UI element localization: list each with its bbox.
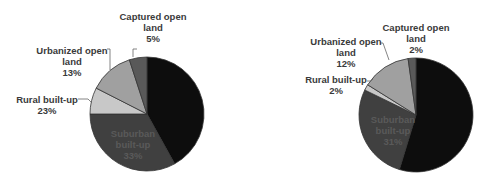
label-urbanized-open-land: Urbanized open land 13% [36,45,108,78]
label-suburban-built-up: Suburban built-up 33% [108,128,158,161]
label-rural-built-up: Rural built-up 23% [14,94,80,116]
label-urbanized-open-land: Urbanized open land 12% [310,36,382,69]
pie-chart-left: Captured open land 5% Urbanized open lan… [0,0,243,182]
pie-chart-right: Captured open land 2% Urbanized open lan… [243,0,486,182]
label-rural-built-up: Rural built-up 2% [303,74,369,96]
label-captured-open-land: Captured open land 5% [118,11,188,44]
label-suburban-built-up: Suburban built-up 31% [368,114,418,147]
leader-line [133,49,137,57]
leader-line [78,99,92,103]
label-captured-open-land: Captured open land 2% [381,22,451,55]
